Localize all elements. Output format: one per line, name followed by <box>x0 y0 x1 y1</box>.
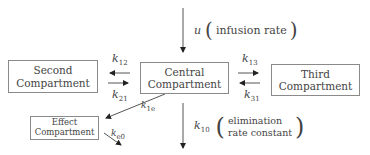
k10-symbol: k <box>194 119 201 132</box>
k31-subscript: 31 <box>251 95 260 103</box>
second-compartment-line1: Second <box>33 64 72 76</box>
k12-label: k12 <box>112 52 128 67</box>
central-compartment-line2: Compartment <box>148 78 222 90</box>
k10-subscript: 10 <box>201 127 210 135</box>
third-compartment-line1: Third <box>301 68 330 80</box>
close-paren: ) <box>295 113 304 141</box>
close-paren: ) <box>290 18 298 42</box>
ke0-label: ke0 <box>111 128 125 141</box>
infusion-label: u ( infusion rate ) <box>194 18 298 42</box>
elimination-line2: rate constant <box>228 127 292 139</box>
effect-compartment-line2: Compartment <box>35 128 95 138</box>
k12-symbol: k <box>112 52 119 65</box>
k10-label: k10 <box>194 119 210 134</box>
elimination-description: elimination rate constant <box>228 115 292 139</box>
k12-subscript: 12 <box>119 59 128 67</box>
open-paren: ( <box>216 113 225 141</box>
k31-label: k31 <box>244 88 260 103</box>
elimination-line1: elimination <box>228 115 292 127</box>
effect-compartment: Effect Compartment <box>30 116 99 140</box>
k1e-subscript: 1e <box>146 105 155 113</box>
third-compartment-line2: Compartment <box>279 80 353 92</box>
k13-symbol: k <box>242 52 249 65</box>
infusion-description: infusion rate <box>216 24 287 37</box>
open-paren: ( <box>205 18 213 42</box>
k21-label: k21 <box>112 88 128 103</box>
third-compartment: Third Compartment <box>271 64 360 96</box>
k13-subscript: 13 <box>249 59 258 67</box>
k21-symbol: k <box>112 88 119 101</box>
k21-subscript: 21 <box>119 95 128 103</box>
k1e-label: k1e <box>141 100 155 113</box>
infusion-symbol: u <box>194 24 201 37</box>
central-compartment: Central Compartment <box>140 62 229 94</box>
second-compartment: Second Compartment <box>8 60 98 93</box>
ke0-subscript: e0 <box>116 133 125 141</box>
central-compartment-line1: Central <box>165 66 205 78</box>
k31-symbol: k <box>244 88 251 101</box>
second-compartment-line2: Compartment <box>16 77 90 89</box>
k13-label: k13 <box>242 52 258 67</box>
elimination-label: k10 ( elimination rate constant ) <box>194 113 304 141</box>
